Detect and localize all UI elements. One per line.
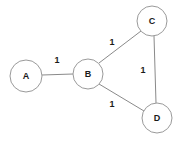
edge-c-d-weight: 1 bbox=[140, 65, 145, 75]
edge-a-b bbox=[42, 74, 73, 75]
edge-b-c bbox=[99, 31, 141, 63]
edge-b-d bbox=[99, 84, 144, 111]
edge-b-c-weight: 1 bbox=[109, 37, 114, 47]
edge-b-d-weight: 1 bbox=[109, 99, 114, 109]
node-a-label: A bbox=[23, 71, 30, 81]
node-d-label: D bbox=[154, 113, 161, 123]
node-b-label: B bbox=[85, 69, 92, 79]
graph-svg: A B C D 1 1 1 1 bbox=[0, 0, 182, 141]
edge-c-d bbox=[154, 36, 156, 103]
edge-a-b-weight: 1 bbox=[54, 55, 59, 65]
node-c-label: C bbox=[149, 16, 156, 26]
graph-diagram-canvas: A B C D 1 1 1 1 bbox=[0, 0, 182, 141]
